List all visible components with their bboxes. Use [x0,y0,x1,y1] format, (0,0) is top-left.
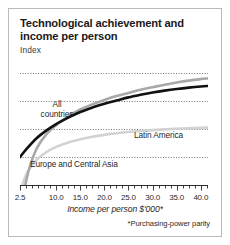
chart-title: Technological achievement and income per… [20,17,206,43]
chart-subtitle-index: Index [20,45,41,55]
series-label-europe-central-asia: Europe and Central Asia [30,159,118,169]
x-tick-label-0: 2.5 [15,193,26,202]
x-axis-ticks [21,186,208,191]
x-tick-label-6: 35.0 [169,193,184,202]
chart-footnote: *Purchasing-power parity [128,219,210,228]
x-tick-label-2: 15.0 [73,193,88,202]
x-tick-label-4: 25.0 [121,193,136,202]
series-label-all-countries: All countries [36,100,78,119]
x-tick-label-3: 20.0 [97,193,112,202]
x-tick-label-7: 40.0 [193,193,208,202]
chart-figure: Technological achievement and income per… [0,0,230,245]
series-label-latin-america: Latin America [134,130,183,140]
x-tick-label-1: 10.0 [49,193,64,202]
x-axis-label: Income per person $'000* [0,204,230,214]
x-tick-label-5: 30.0 [145,193,160,202]
